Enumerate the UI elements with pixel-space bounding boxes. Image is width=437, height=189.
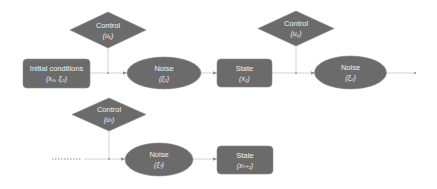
node-sublabel: (xₜ₊₁): [237, 162, 253, 170]
node-noise-2: Noise (ξ₂): [315, 56, 387, 89]
node-sublabel: (u₂): [290, 30, 301, 38]
node-noise-T: Noise (ξₜ): [125, 143, 193, 176]
node-label: State: [236, 64, 254, 73]
node-label: Initial conditions: [30, 64, 84, 73]
node-label: Control: [96, 21, 121, 30]
ellipse-shape: [125, 143, 193, 176]
node-label: State: [236, 151, 254, 160]
node-noise-1: Noise (ξ₁): [127, 57, 201, 89]
diamond-shape: [72, 98, 146, 131]
node-sublabel: (x₂): [239, 75, 250, 83]
node-label: Noise: [149, 150, 168, 159]
arrow-head: [213, 157, 217, 160]
node-sublabel: (ξ₂): [345, 74, 355, 82]
node-label: Noise: [341, 63, 360, 72]
ellipse-shape: [315, 56, 387, 89]
node-label: Control: [97, 105, 122, 114]
node-control-2: Control (u₂): [258, 11, 334, 46]
diamond-shape: [70, 12, 146, 48]
node-sublabel: (u₁): [103, 32, 114, 40]
arrow-head: [121, 157, 125, 160]
node-sublabel: (ξₜ): [154, 161, 164, 169]
stochastic-control-diagram: Control (u₁) Initial conditions (x₀, ξ₀)…: [0, 0, 437, 189]
arrow-head: [414, 72, 416, 74]
node-label: Noise: [154, 64, 173, 73]
node-sublabel: (ξ₁): [159, 75, 169, 83]
node-label: Control: [284, 19, 309, 28]
node-state-2: State (x₂): [217, 59, 272, 87]
diamond-shape: [258, 11, 334, 46]
node-state-T-plus-1: State (xₜ₊₁): [217, 146, 273, 174]
node-initial-conditions: Initial conditions (x₀, ξ₀): [23, 59, 90, 88]
arrow-head: [123, 71, 127, 74]
ellipse-shape: [127, 57, 201, 89]
arrow-head: [213, 71, 217, 74]
node-control-T: Control (uₜ): [72, 98, 146, 131]
node-control-1: Control (u₁): [70, 12, 146, 48]
node-sublabel: (x₀, ξ₀): [46, 75, 67, 83]
node-sublabel: (uₜ): [104, 116, 115, 124]
